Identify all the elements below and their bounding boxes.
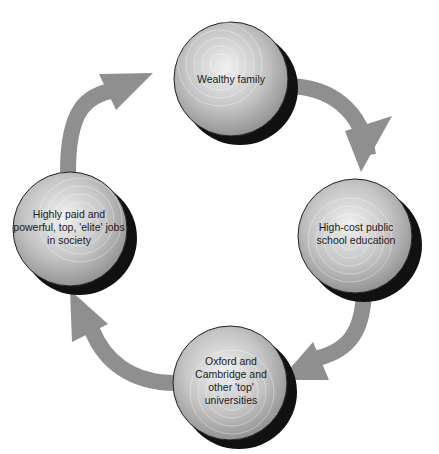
label-top-universities: Oxford and Cambridge and other 'top' uni… — [186, 355, 276, 407]
arrow-bottom-to-left — [70, 290, 176, 383]
arrow-top-to-right — [286, 86, 392, 172]
label-elite-jobs: Highly paid and powerful, top, 'elite' j… — [13, 208, 125, 247]
label-wealthy-family: Wealthy family — [177, 73, 285, 86]
arrow-left-to-top — [68, 73, 153, 172]
label-public-school: High-cost public school education — [304, 221, 408, 247]
